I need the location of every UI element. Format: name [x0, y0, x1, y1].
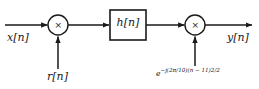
multiplier-2-symbol: × — [192, 20, 200, 30]
output-signal-label: y[n] — [227, 32, 249, 43]
chirp-exponent-tail: /2 — [214, 67, 219, 73]
diagram-wires — [0, 0, 259, 89]
filter-block-label: h[n] — [110, 16, 146, 29]
input-signal-label: x[n] — [7, 32, 29, 43]
block-diagram: × × x[n] r[n] h[n] y[n] e−j(2π/10)(n − 1… — [0, 0, 259, 89]
chirp-exponent: −j(2π/10)(n − 11) — [160, 67, 210, 73]
multiplier-1-symbol: × — [55, 20, 63, 30]
noise-signal-label: r[n] — [47, 71, 68, 82]
chirp-exponential-label: e−j(2π/10)(n − 11)2/2 — [156, 68, 220, 77]
